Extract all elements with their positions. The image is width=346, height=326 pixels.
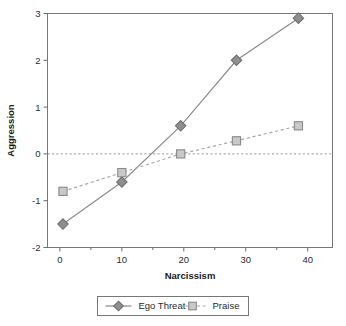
chart-legend: Ego ThreatPraise [98, 297, 249, 316]
x-axis-tick-label: 40 [302, 254, 313, 265]
x-axis-tick-label: 30 [240, 254, 251, 265]
series-line [63, 126, 298, 192]
chart-figure: -2-10123010203040NarcissismAggressionEgo… [0, 0, 346, 326]
y-axis-title: Aggression [5, 104, 16, 156]
legend-item-label: Praise [213, 300, 240, 311]
x-axis-title: Narcissism [165, 270, 216, 281]
legend-marker-square-icon [189, 302, 197, 310]
x-axis-tick-label: 10 [117, 254, 128, 265]
series-praise [59, 122, 303, 196]
data-point-marker [294, 122, 302, 130]
data-point-marker [293, 13, 303, 23]
y-axis-tick-label: 1 [35, 102, 40, 113]
x-axis-tick-label: 20 [179, 254, 190, 265]
data-point-marker [59, 187, 67, 195]
y-axis-tick-label: 2 [35, 55, 40, 66]
data-point-marker [58, 219, 68, 229]
data-point-marker [177, 150, 185, 158]
legend-item-ego-threat[interactable]: Ego Threat [106, 300, 186, 311]
y-axis-tick-label: -2 [32, 242, 40, 253]
y-axis-tick-label: -1 [32, 195, 40, 206]
y-axis-tick-label: 3 [35, 8, 40, 19]
data-point-marker [232, 137, 240, 145]
plot-frame [48, 14, 333, 248]
x-axis-tick-label: 0 [57, 254, 62, 265]
legend-item-label: Ego Threat [139, 300, 186, 311]
y-axis-tick-label: 0 [35, 148, 40, 159]
data-point-marker [118, 169, 126, 177]
series-ego-threat [58, 13, 304, 229]
aggression-narcissism-line-chart: -2-10123010203040NarcissismAggressionEgo… [0, 0, 346, 326]
